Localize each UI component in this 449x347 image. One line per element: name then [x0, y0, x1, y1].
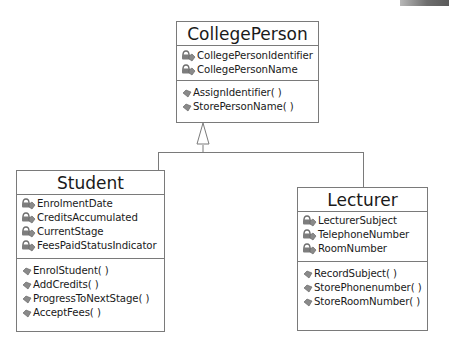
class-lecturer[interactable]: Lecturer LecturerSubject TelephoneNumber: [297, 187, 428, 331]
private-attribute-icon: [181, 50, 196, 62]
operation-row[interactable]: RecordSubject( ): [303, 267, 427, 281]
attribute-label: TelephoneNumber: [318, 228, 409, 242]
attribute-row[interactable]: LecturerSubject: [302, 214, 427, 228]
operation-row[interactable]: StorePersonName( ): [182, 100, 318, 114]
operation-row[interactable]: AcceptFees( ): [22, 306, 164, 320]
attribute-compartment: LecturerSubject TelephoneNumber RoomNumb…: [298, 212, 427, 262]
operation-label: AddCredits( ): [33, 278, 99, 292]
class-name: Student: [17, 171, 164, 195]
operation-icon: [303, 270, 313, 279]
attribute-row[interactable]: CollegePersonName: [181, 63, 318, 77]
operation-label: StoreRoomNumber( ): [314, 295, 420, 309]
operation-label: AcceptFees( ): [33, 306, 101, 320]
attribute-row[interactable]: TelephoneNumber: [302, 228, 427, 242]
operation-label: EnrolStudent( ): [33, 264, 109, 278]
operation-label: StorePersonName( ): [193, 100, 294, 114]
operation-icon: [22, 295, 32, 304]
operation-icon: [303, 284, 313, 293]
attribute-label: RoomNumber: [318, 242, 387, 256]
operation-row[interactable]: StorePhonenumber( ): [303, 281, 427, 295]
class-student[interactable]: Student EnrolmentDate CreditsAccumulated: [16, 170, 165, 332]
operation-icon: [22, 309, 32, 318]
operation-icon: [182, 89, 192, 98]
operation-row[interactable]: AssignIdentifier( ): [182, 86, 318, 100]
class-collegeperson[interactable]: CollegePerson CollegePersonIdentifier Co…: [176, 21, 319, 123]
attribute-compartment: EnrolmentDate CreditsAccumulated Current…: [17, 195, 164, 259]
attribute-label: CreditsAccumulated: [37, 211, 138, 225]
private-attribute-icon: [302, 215, 317, 227]
operation-label: AssignIdentifier( ): [193, 86, 282, 100]
attribute-compartment: CollegePersonIdentifier CollegePersonNam…: [177, 46, 318, 81]
operation-compartment: RecordSubject( ) StorePhonenumber( ) Sto…: [298, 262, 427, 311]
private-attribute-icon: [302, 229, 317, 241]
operation-label: ProgressToNextStage( ): [33, 292, 149, 306]
attribute-label: LecturerSubject: [318, 214, 397, 228]
attribute-label: CurrentStage: [37, 225, 104, 239]
operation-icon: [182, 103, 192, 112]
attribute-label: FeesPaidStatusIndicator: [37, 239, 157, 253]
operation-compartment: AssignIdentifier( ) StorePersonName( ): [177, 81, 318, 116]
private-attribute-icon: [21, 212, 36, 224]
operation-icon: [22, 267, 32, 276]
operation-row[interactable]: ProgressToNextStage( ): [22, 292, 164, 306]
attribute-label: EnrolmentDate: [37, 197, 113, 211]
private-attribute-icon: [21, 240, 36, 252]
private-attribute-icon: [21, 198, 36, 210]
operation-compartment: EnrolStudent( ) AddCredits( ) ProgressTo…: [17, 259, 164, 322]
private-attribute-icon: [302, 243, 317, 255]
attribute-row[interactable]: CollegePersonIdentifier: [181, 49, 318, 63]
operation-label: RecordSubject( ): [314, 267, 397, 281]
attribute-row[interactable]: CurrentStage: [21, 225, 164, 239]
class-name: CollegePerson: [177, 22, 318, 46]
generalization-arrowhead: [197, 123, 209, 144]
class-name: Lecturer: [298, 188, 427, 212]
private-attribute-icon: [181, 64, 196, 76]
attribute-label: CollegePersonIdentifier: [197, 49, 313, 63]
operation-label: StorePhonenumber( ): [314, 281, 422, 295]
attribute-row[interactable]: RoomNumber: [302, 242, 427, 256]
operation-row[interactable]: AddCredits( ): [22, 278, 164, 292]
attribute-label: CollegePersonName: [197, 63, 298, 77]
private-attribute-icon: [21, 226, 36, 238]
operation-row[interactable]: StoreRoomNumber( ): [303, 295, 427, 309]
operation-row[interactable]: EnrolStudent( ): [22, 264, 164, 278]
attribute-row[interactable]: CreditsAccumulated: [21, 211, 164, 225]
attribute-row[interactable]: EnrolmentDate: [21, 197, 164, 211]
attribute-row[interactable]: FeesPaidStatusIndicator: [21, 239, 164, 253]
operation-icon: [22, 281, 32, 290]
operation-icon: [303, 298, 313, 307]
